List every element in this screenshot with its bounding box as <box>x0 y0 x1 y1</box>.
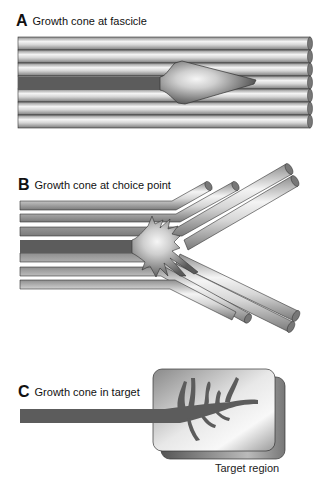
panel-c-label: CGrowth cone in target <box>18 383 140 401</box>
panel-c-caption: Growth cone in target <box>35 386 140 398</box>
panel-a-fascicle <box>18 37 313 128</box>
target-region-label: Target region <box>215 462 279 474</box>
panel-b-letter: B <box>18 176 30 193</box>
axon <box>20 240 138 253</box>
panel-a-label: AGrowth cone at fascicle <box>16 12 147 30</box>
panel-c-letter: C <box>18 383 30 400</box>
panel-b-caption: Growth cone at choice point <box>35 179 171 191</box>
panel-a-caption: Growth cone at fascicle <box>33 15 147 27</box>
panel-b-label: BGrowth cone at choice point <box>18 176 171 194</box>
axon <box>18 77 168 90</box>
panel-a-letter: A <box>16 12 28 29</box>
axon <box>20 409 170 423</box>
diagram-canvas <box>0 0 324 482</box>
